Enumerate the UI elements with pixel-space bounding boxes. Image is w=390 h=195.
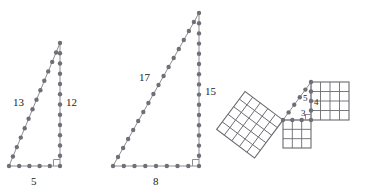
figure-squares-3-4-5: 5 4 3 <box>0 0 390 195</box>
label-hypotenuse-5: 5 <box>303 94 308 103</box>
squares-3-4-5-svg <box>0 0 390 195</box>
square-on-hypotenuse-5x5 <box>217 92 283 158</box>
figure-page: 13 12 5 <box>0 0 390 195</box>
label-vertical-leg-4: 4 <box>314 98 319 107</box>
square-on-horizontal-leg-3x3 <box>283 120 311 148</box>
label-horizontal-leg-3: 3 <box>301 109 306 118</box>
